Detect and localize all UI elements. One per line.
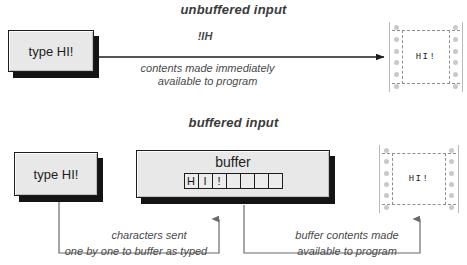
sprocket-hole [449, 193, 454, 198]
sprocket-hole [394, 37, 399, 42]
sprocket-hole [384, 205, 389, 210]
buffer-cell[interactable] [226, 173, 241, 189]
sprocket-hole [384, 159, 389, 164]
sprocket-hole [394, 84, 399, 89]
unbuffered-note-line1: contents made immediately [120, 62, 295, 75]
sprocket-hole [453, 84, 458, 89]
paper-perf-top [392, 30, 460, 31]
buffer-contents-label-line2: available to program [262, 245, 432, 258]
buffer-title: buffer [215, 154, 251, 171]
input-box-face: type HI! [8, 30, 94, 72]
reversed-input-label: !IH [150, 30, 260, 43]
paper-perf-bottom [382, 204, 456, 205]
sprocket-hole [449, 205, 454, 210]
sprocket-hole [394, 72, 399, 77]
sprocket-hole [384, 148, 389, 153]
unbuffered-note-line2: available to program [120, 75, 295, 88]
paper-perf-top [382, 153, 456, 154]
input-box-face: type HI! [14, 152, 98, 196]
input-box-label: type HI! [29, 44, 74, 59]
buffer-cell[interactable] [240, 173, 255, 189]
input-box-label: type HI! [34, 167, 79, 182]
buffer-cell[interactable] [254, 173, 269, 189]
section-title-buffered: buffered input [0, 115, 467, 130]
paper-perf-bottom [392, 83, 460, 84]
sprocket-hole [453, 72, 458, 77]
program-output-text: HI! [389, 52, 463, 62]
sprocket-hole [453, 25, 458, 30]
buffer-box-face: buffer H I ! [136, 150, 330, 198]
input-box-unbuffered[interactable]: type HI! [8, 30, 94, 72]
buffer-box[interactable]: buffer H I ! [136, 150, 330, 198]
section-title-unbuffered: unbuffered input [0, 2, 467, 17]
program-output-paper-buffered: HI! [379, 145, 459, 213]
buffer-cell[interactable]: H [184, 173, 199, 189]
sprocket-hole [394, 25, 399, 30]
buffer-cell[interactable] [268, 173, 283, 189]
buffer-cells: H I ! [184, 173, 283, 189]
buffer-cell[interactable]: ! [212, 173, 227, 189]
diagram-canvas: unbuffered input type HI! !IH contents m… [0, 0, 467, 265]
sprocket-hole [449, 148, 454, 153]
buffer-contents-label-line1: buffer contents made [262, 229, 432, 242]
buffer-cell[interactable]: I [198, 173, 213, 189]
sprocket-hole [384, 193, 389, 198]
input-box-buffered[interactable]: type HI! [14, 152, 98, 196]
characters-sent-label-line1: characters sent [74, 229, 224, 242]
sprocket-hole [453, 37, 458, 42]
program-output-paper-unbuffered: HI! [389, 22, 463, 92]
program-output-text: HI! [379, 174, 459, 184]
characters-sent-label-line2: one by one to buffer as typed [28, 245, 244, 258]
sprocket-hole [449, 159, 454, 164]
